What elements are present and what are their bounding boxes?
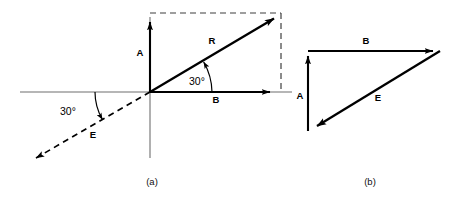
panel-b-vector-e [317, 51, 440, 126]
panel-a-angle-arc-lower [95, 92, 102, 120]
panel-a-caption: (a) [146, 176, 158, 187]
figure-canvas: A B R E 30° 30° (a) A B [0, 0, 452, 200]
vector-diagram-figure: A B R E 30° 30° (a) A B [0, 0, 452, 200]
panel-a-angle-arc-upper [204, 62, 212, 92]
panel-a-vector-e [36, 92, 150, 158]
panel-b-vector-b-label: B [363, 35, 370, 46]
panel-b-vector-e-label: E [375, 92, 381, 103]
panel-b-group: A B E (b) [297, 35, 440, 187]
panel-a-vector-r-label: R [209, 35, 216, 46]
panel-a-angle-label-lower: 30° [60, 105, 76, 117]
panel-a-angle-label-upper: 30° [189, 75, 205, 87]
panel-b-caption: (b) [364, 176, 376, 187]
panel-a-group: A B R E 30° 30° (a) [20, 13, 292, 187]
panel-a-vector-b-label: B [213, 94, 220, 105]
panel-a-vector-a-label: A [137, 47, 144, 58]
panel-a-vector-e-label: E [90, 129, 96, 140]
panel-b-vector-a-label: A [297, 90, 304, 101]
panel-a-vector-r [150, 19, 274, 93]
